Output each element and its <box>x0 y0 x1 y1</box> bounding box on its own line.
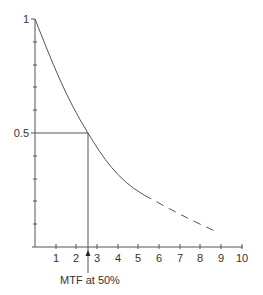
x-label-7: 7 <box>177 252 183 264</box>
x-label-8: 8 <box>197 252 203 264</box>
x-label-5: 5 <box>135 252 141 264</box>
mtf-curve-dashed <box>144 195 215 231</box>
x-tick-labels: 1 2 3 4 5 6 7 8 9 10 <box>53 252 248 264</box>
mtf-chart: 1 0.5 1 2 3 4 5 6 7 8 9 10 MTF at 50% <box>0 0 263 295</box>
x-label-2: 2 <box>73 252 79 264</box>
x-label-1: 1 <box>53 252 59 264</box>
mtf50-annotation: MTF at 50% <box>60 274 120 286</box>
x-label-9: 9 <box>218 252 224 264</box>
x-label-4: 4 <box>115 252 121 264</box>
mtf-curve-solid <box>35 19 144 195</box>
x-label-6: 6 <box>156 252 162 264</box>
arrow-up-icon <box>86 250 91 256</box>
x-label-3: 3 <box>94 252 100 264</box>
y-ticks <box>31 19 37 224</box>
y-label-0-5: 0.5 <box>14 127 29 139</box>
x-label-10: 10 <box>236 252 248 264</box>
y-label-1: 1 <box>23 13 29 25</box>
